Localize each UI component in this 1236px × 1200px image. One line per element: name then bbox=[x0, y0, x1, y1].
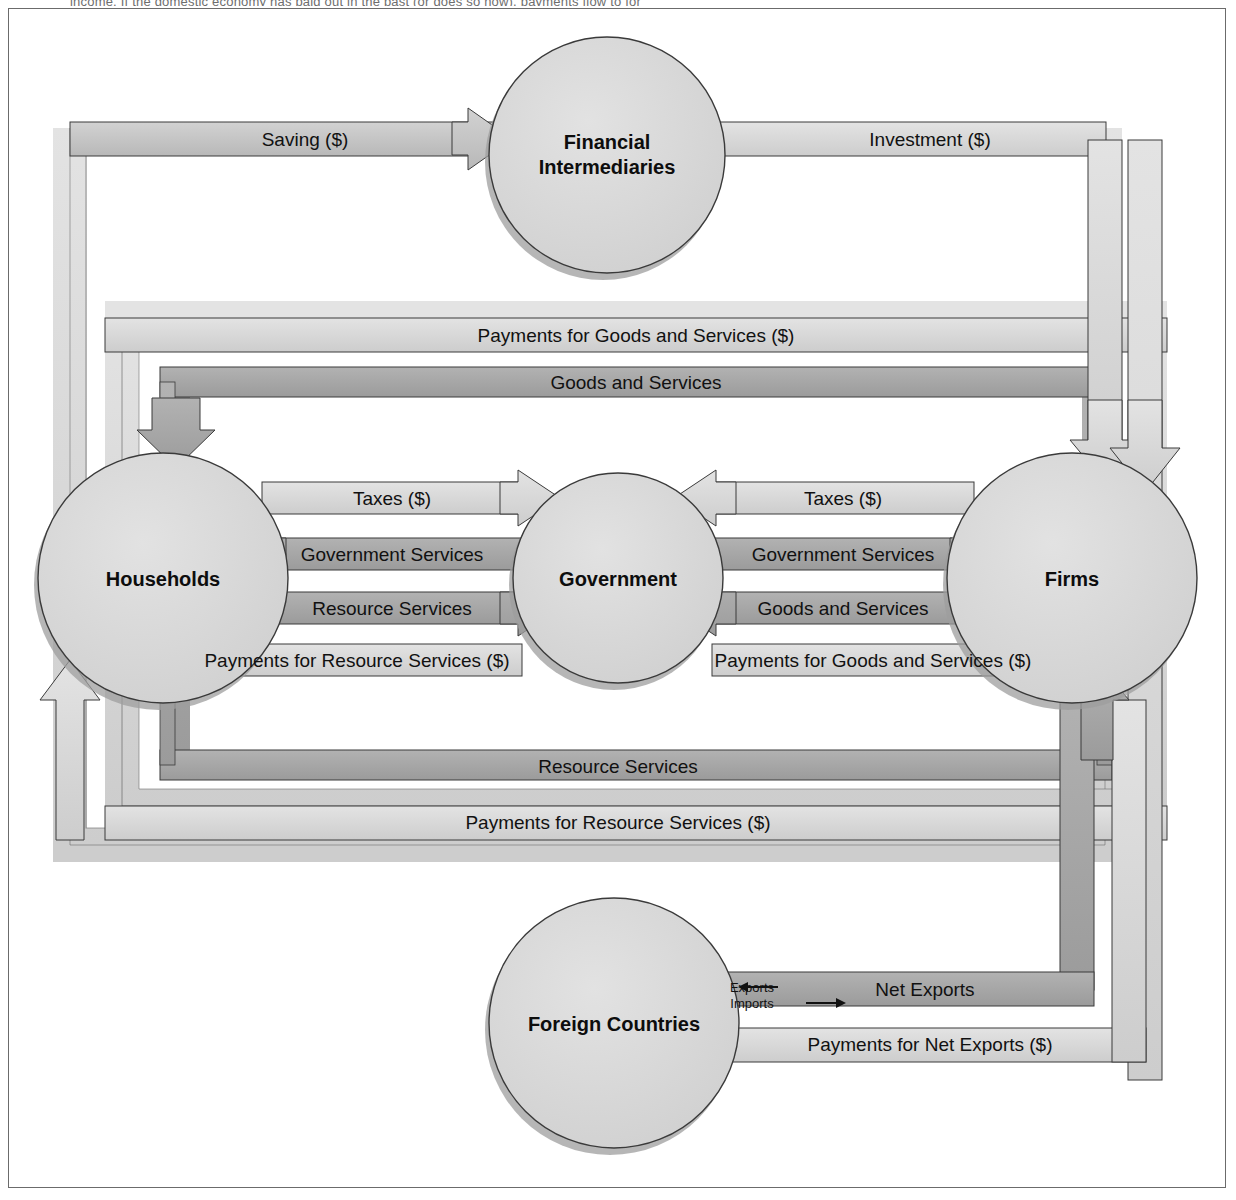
node-label-financial-intermediaries-line2: Intermediaries bbox=[539, 156, 676, 178]
flow-label-resource-services-govt: Resource Services bbox=[312, 598, 471, 619]
flow-label-investment: Investment ($) bbox=[869, 129, 990, 150]
node-label-households: Households bbox=[106, 568, 220, 590]
node-label-financial-intermediaries-line1: Financial bbox=[564, 131, 651, 153]
legend-label-imports: Imports bbox=[730, 996, 774, 1011]
node-financial-intermediaries[interactable]: Financial Intermediaries bbox=[485, 37, 725, 280]
diagram-page: income. If the domestic economy has paid… bbox=[0, 0, 1236, 1200]
flow-label-goods-services-outer: Goods and Services bbox=[550, 372, 721, 393]
flow-label-taxes-households: Taxes ($) bbox=[353, 488, 431, 509]
flow-label-payments-resource-outer: Payments for Resource Services ($) bbox=[465, 812, 770, 833]
flow-label-net-exports: Net Exports bbox=[875, 979, 974, 1000]
node-label-government: Government bbox=[559, 568, 677, 590]
circular-flow-svg: Financial Intermediaries Households Gove… bbox=[0, 0, 1236, 1200]
flow-label-govt-services-households: Government Services bbox=[301, 544, 484, 565]
node-government[interactable]: Government bbox=[509, 473, 723, 690]
flow-label-payments-net-exports: Payments for Net Exports ($) bbox=[808, 1034, 1053, 1055]
flow-label-resource-services-outer: Resource Services bbox=[538, 756, 697, 777]
node-label-foreign-countries: Foreign Countries bbox=[528, 1013, 700, 1035]
flow-label-payments-goods-outer: Payments for Goods and Services ($) bbox=[478, 325, 795, 346]
flow-label-goods-services-govt: Goods and Services bbox=[757, 598, 928, 619]
flow-label-saving: Saving ($) bbox=[262, 129, 349, 150]
node-label-firms: Firms bbox=[1045, 568, 1099, 590]
flow-label-payments-goods-firms: Payments for Goods and Services ($) bbox=[715, 650, 1032, 671]
flow-label-govt-services-firms: Government Services bbox=[752, 544, 935, 565]
flow-label-taxes-firms: Taxes ($) bbox=[804, 488, 882, 509]
flow-label-payments-resource-households: Payments for Resource Services ($) bbox=[204, 650, 509, 671]
node-foreign-countries[interactable]: Foreign Countries bbox=[485, 898, 739, 1155]
